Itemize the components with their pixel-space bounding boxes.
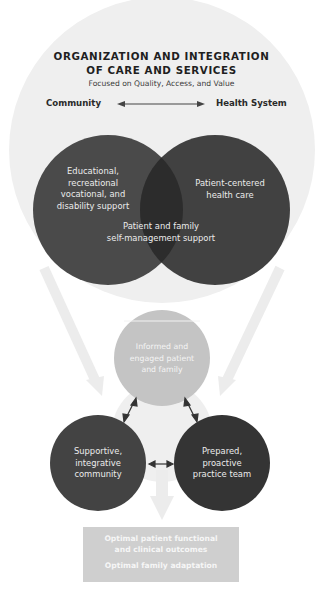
text-line: community bbox=[53, 469, 143, 481]
informed-patient-text: Informed and engaged patient and family bbox=[112, 341, 212, 376]
outcomes-box: Optimal patient functional and clinical … bbox=[83, 527, 239, 582]
text-line: Prepared, bbox=[177, 446, 267, 458]
outcome-line: and clinical outcomes bbox=[83, 545, 239, 556]
text-line: Educational, bbox=[38, 166, 148, 178]
text-line: engaged patient bbox=[112, 353, 212, 365]
text-line: Supportive, bbox=[53, 446, 143, 458]
title-line-2: OF CARE AND SERVICES bbox=[0, 63, 323, 77]
community-label: Community bbox=[46, 98, 101, 108]
text-line: integrative bbox=[53, 458, 143, 470]
prepared-team-text: Prepared, proactive practice team bbox=[177, 446, 267, 481]
outcome-line: Optimal family adaptation bbox=[83, 561, 239, 572]
outcome-line: Optimal patient functional bbox=[83, 527, 239, 545]
text-line: practice team bbox=[177, 469, 267, 481]
health-system-label: Health System bbox=[216, 98, 287, 108]
diagram-title: ORGANIZATION AND INTEGRATION OF CARE AND… bbox=[0, 49, 323, 77]
text-line: proactive bbox=[177, 458, 267, 470]
text-line: vocational, and bbox=[38, 189, 148, 201]
text-line: disability support bbox=[38, 201, 148, 213]
supportive-community-text: Supportive, integrative community bbox=[53, 446, 143, 481]
text-line: Patient-centered bbox=[180, 178, 280, 190]
text-line: and family bbox=[112, 364, 212, 376]
text-line: self-management support bbox=[86, 233, 236, 245]
self-management-text: Patient and family self-management suppo… bbox=[86, 221, 236, 244]
diagram-graphics bbox=[0, 0, 323, 594]
text-line: health care bbox=[180, 190, 280, 202]
title-line-1: ORGANIZATION AND INTEGRATION bbox=[0, 49, 323, 63]
text-line: Patient and family bbox=[86, 221, 236, 233]
community-support-text: Educational, recreational vocational, an… bbox=[38, 166, 148, 212]
health-care-text: Patient-centered health care bbox=[180, 178, 280, 201]
subtitle: Focused on Quality, Access, and Value bbox=[0, 79, 323, 88]
text-line: Informed and bbox=[112, 341, 212, 353]
text-line: recreational bbox=[38, 178, 148, 190]
